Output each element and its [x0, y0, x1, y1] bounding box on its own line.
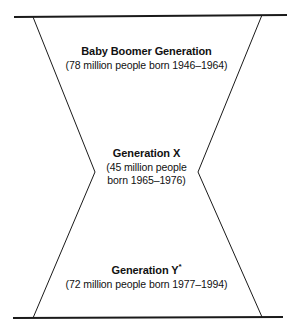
baby-boomer-section: Baby Boomer Generation (78 million peopl…	[0, 45, 293, 72]
generation-x-detail-line-1: (45 million people	[0, 161, 293, 175]
generation-y-detail: (72 million people born 1977–1994)	[0, 278, 293, 292]
right-lower-diagonal-line	[198, 172, 262, 317]
top-horizontal-rule	[14, 15, 287, 17]
generation-y-footnote-marker: *	[179, 262, 182, 271]
generation-y-title-text: Generation Y	[111, 264, 178, 276]
baby-boomer-detail: (78 million people born 1946–1964)	[0, 59, 293, 73]
baby-boomer-title: Baby Boomer Generation	[0, 45, 293, 59]
generation-y-title: Generation Y*	[0, 264, 293, 278]
generation-x-title: Generation X	[0, 147, 293, 161]
generation-y-section: Generation Y* (72 million people born 19…	[0, 264, 293, 291]
generation-x-detail-line-2: born 1965–1976)	[0, 174, 293, 188]
generation-x-section: Generation X (45 million people born 196…	[0, 147, 293, 188]
bottom-horizontal-rule	[13, 317, 283, 318]
hourglass-generation-diagram: Baby Boomer Generation (78 million peopl…	[0, 0, 293, 331]
left-lower-diagonal-line	[33, 172, 95, 318]
